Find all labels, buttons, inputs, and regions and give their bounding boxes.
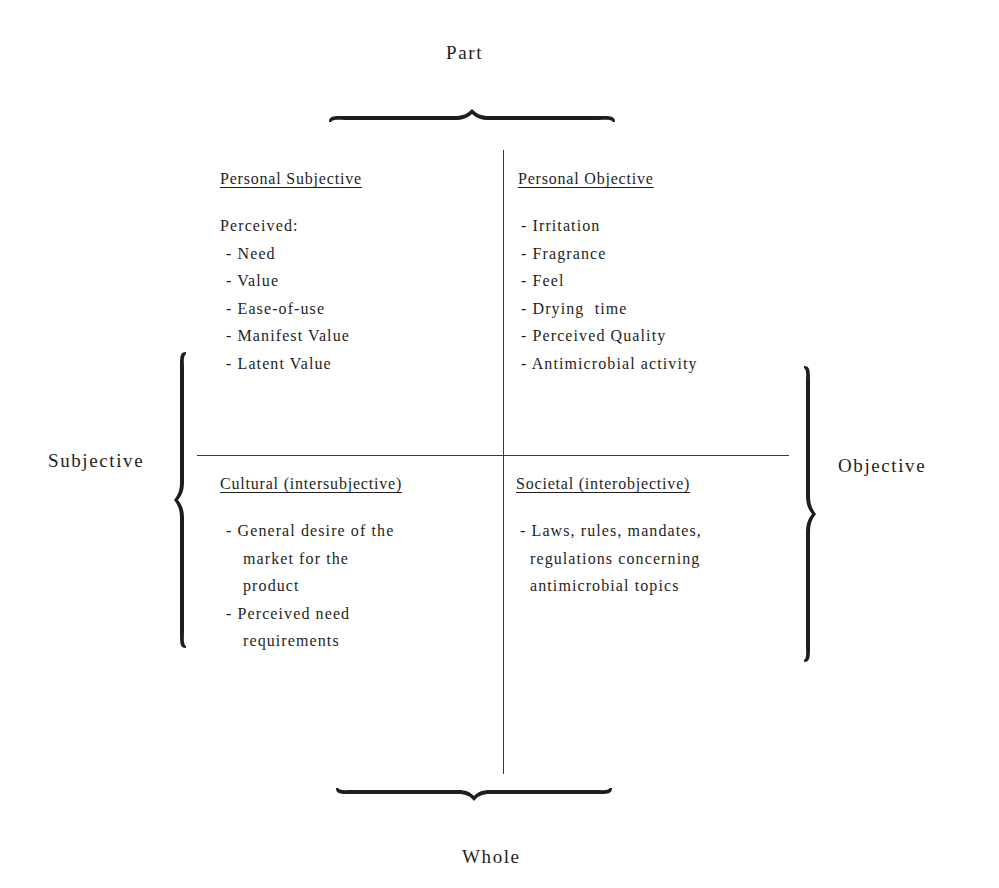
list-item: - Perceived Quality <box>521 322 698 350</box>
horizontal-divider <box>197 455 789 456</box>
list-item-continuation: antimicrobial topics <box>520 572 702 600</box>
quadrant-personal-objective: Personal Objective - Irritation - Fragra… <box>518 170 698 378</box>
list-item: - Laws, rules, mandates, <box>520 517 702 545</box>
list-item: - Ease-of-use <box>226 295 362 323</box>
quadrant-cultural: Cultural (intersubjective) - General des… <box>220 475 402 655</box>
vertical-divider <box>503 150 504 774</box>
quadrant-title: Cultural (intersubjective) <box>220 475 402 493</box>
list-item-continuation: regulations concerning <box>520 545 702 573</box>
list-item: - Manifest Value <box>226 322 362 350</box>
quadrant-item-list: - Laws, rules, mandates, regulations con… <box>516 517 702 600</box>
quadrant-intro: Perceived: <box>220 212 362 240</box>
quadrant-item-list: - General desire of the market for the p… <box>220 517 402 655</box>
list-item-continuation: market for the <box>226 545 402 573</box>
quadrant-title: Personal Objective <box>518 170 698 188</box>
quadrant-item-list: - Need - Value - Ease-of-use - Manifest … <box>220 240 362 378</box>
quadrant-item-list: - Irritation - Fragrance - Feel - Drying… <box>518 212 698 378</box>
quadrant-personal-subjective: Personal Subjective Perceived: - Need - … <box>220 170 362 378</box>
list-item-continuation: product <box>226 572 402 600</box>
list-item: - Fragrance <box>521 240 698 268</box>
list-item: - Need <box>226 240 362 268</box>
axis-label-whole: Whole <box>462 846 521 868</box>
list-item: - General desire of the <box>226 517 402 545</box>
top-brace-icon <box>327 104 617 124</box>
list-item: - Feel <box>521 267 698 295</box>
list-item: - Value <box>226 267 362 295</box>
quadrant-title: Societal (interobjective) <box>516 475 702 493</box>
list-item-continuation: requirements <box>226 627 402 655</box>
axis-label-subjective: Subjective <box>48 450 144 472</box>
quadrant-title: Personal Subjective <box>220 170 362 188</box>
bottom-brace-icon <box>334 786 614 806</box>
list-item: - Latent Value <box>226 350 362 378</box>
list-item: - Drying time <box>521 295 698 323</box>
list-item: - Irritation <box>521 212 698 240</box>
list-item: - Antimicrobial activity <box>521 350 698 378</box>
right-brace-icon <box>798 364 818 664</box>
quadrant-societal: Societal (interobjective) - Laws, rules,… <box>516 475 702 600</box>
axis-label-objective: Objective <box>838 455 926 477</box>
list-item: - Perceived need <box>226 600 402 628</box>
axis-label-part: Part <box>446 42 483 64</box>
left-brace-icon <box>172 350 192 650</box>
